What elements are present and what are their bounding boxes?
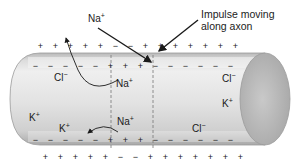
ion-na-inside-upper: Na+ <box>116 79 133 89</box>
charges-outer-top: + + + + + − − + + + + + + + <box>33 42 243 51</box>
callout-line-1: Impulse moving <box>201 8 275 20</box>
ion-cl-left: Cl− <box>54 73 68 83</box>
charges-inner-top: − − − − − + + + − − − − − − <box>28 62 238 71</box>
ion-cl-right-upper: Cl− <box>222 74 236 84</box>
impulse-callout: Impulse moving along axon <box>201 8 275 32</box>
ion-k-left: K+ <box>29 113 40 123</box>
charges-outer-bottom: + + + + + − − + + + + + + + <box>38 153 248 162</box>
ion-k-left-lower: K+ <box>59 124 70 134</box>
axon-impulse-diagram: Impulse moving along axon Na+ Na+ Na+ Cl… <box>0 0 294 165</box>
axon-end-cap <box>240 53 290 145</box>
charges-inner-bottom: − − − − − + + + − − − − − − <box>28 136 238 145</box>
ion-k-right: K+ <box>222 99 233 109</box>
ion-cl-right-lower: Cl− <box>192 124 206 134</box>
callout-line-2: along axon <box>201 20 275 32</box>
ion-na-inside-lower: Na+ <box>117 117 134 127</box>
ion-na-top: Na+ <box>88 14 105 24</box>
